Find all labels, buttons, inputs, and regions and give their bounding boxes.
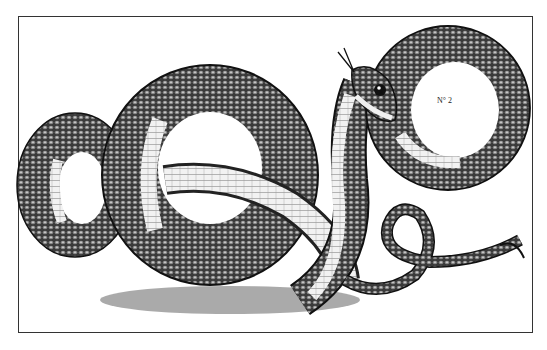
plate-label: N° 2 [437, 96, 452, 105]
tongue [338, 48, 354, 72]
snake-illustration [0, 0, 547, 350]
eye-icon [374, 84, 386, 96]
tail [345, 209, 524, 289]
